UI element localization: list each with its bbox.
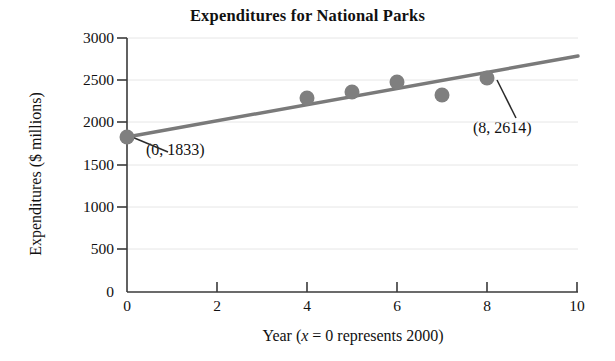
data-point [120,130,135,145]
chart-figure: Expenditures for National Parks Expendit… [0,0,615,361]
data-point [480,71,495,86]
x-axis-ticks [217,282,577,292]
data-point [390,75,405,90]
plot-area [0,0,615,361]
data-point [435,88,450,103]
data-point [345,85,360,100]
annotation-leader-lines [132,80,516,152]
data-point [300,91,315,106]
